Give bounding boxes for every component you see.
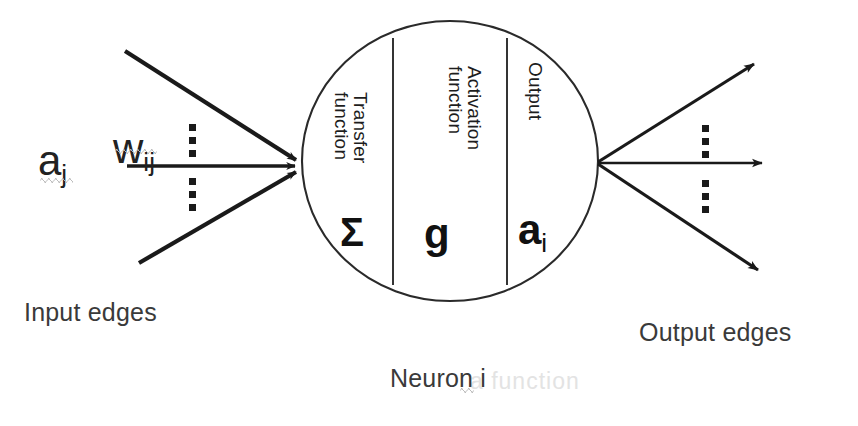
scan-artifact-text: a function (470, 368, 580, 395)
diagram-canvas: a function aj wij Transfer function Σ Ac… (0, 0, 858, 426)
output-ellipsis-lower (702, 180, 709, 213)
input-ellipsis-upper (189, 124, 196, 157)
compartment-output-symbol: ai (518, 209, 547, 251)
compartment-transfer-caption-line1: Transfer (350, 92, 370, 164)
compartment-output-caption-line1: Output (525, 62, 545, 120)
output-edge-top (598, 64, 754, 162)
output-edge-bottom (598, 164, 758, 270)
compartment-activation-symbol: g (424, 213, 450, 255)
compartment-activation-caption-line1: Activation (464, 66, 484, 150)
spellcheck-underline-aj (40, 178, 73, 183)
input-ellipsis-lower (189, 178, 196, 211)
spellcheck-underline-neuron-i (460, 388, 474, 393)
input-activation-label: aj (38, 140, 67, 182)
compartment-output-symbol-base: a (518, 206, 541, 253)
neuron-label-subscript: i (480, 364, 486, 392)
compartment-activation-caption-line2: function (445, 66, 465, 134)
neuron-body (302, 21, 598, 301)
output-edges-label: Output edges (639, 320, 792, 345)
input-activation-symbol: a (38, 137, 61, 184)
input-activation-subscript: j (61, 159, 67, 189)
spellcheck-underline-wij (115, 149, 157, 154)
input-edge-bottom (139, 172, 296, 263)
compartment-transfer-caption-line2: function (331, 92, 351, 160)
compartment-transfer-symbol: Σ (340, 212, 364, 252)
output-ellipsis-upper (702, 125, 709, 158)
compartment-output-symbol-subscript: i (541, 228, 547, 258)
input-edges-label: Input edges (24, 300, 157, 325)
